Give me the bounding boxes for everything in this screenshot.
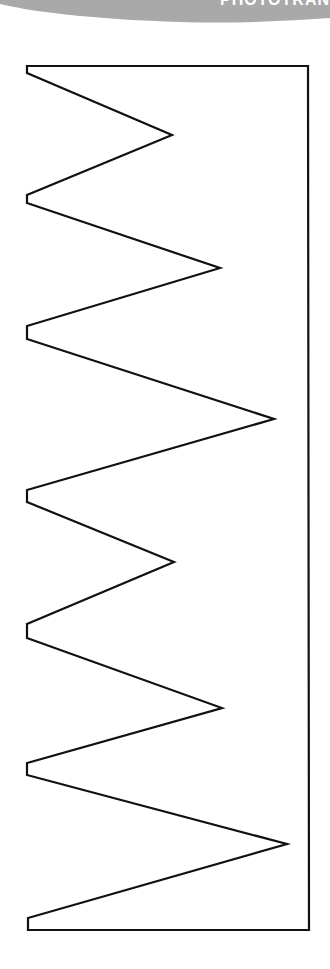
zigzag-outline (27, 66, 309, 930)
zigzag-template (0, 0, 330, 969)
